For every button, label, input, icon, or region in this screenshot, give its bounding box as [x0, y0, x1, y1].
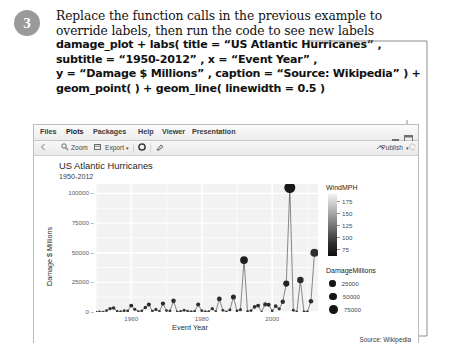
- export-icon[interactable]: [94, 143, 103, 152]
- instruction-code-line: geom_point( ) + geom_line( linewidth = 0…: [56, 82, 406, 97]
- pane-tab-bar: Files Plots Packages Help Viewer Present…: [34, 125, 418, 141]
- y-axis-ticks: 0 –25000 –50000 –75000 –100000 –: [34, 184, 94, 312]
- colorbar-tick: [337, 225, 340, 226]
- zoom-button[interactable]: Zoom: [71, 144, 88, 151]
- y-tick-label: 75000 –: [72, 219, 94, 226]
- toolbar-divider: [150, 143, 151, 153]
- color-legend: 17515012510075: [328, 194, 416, 256]
- instruction-code-line: damage_plot + labs( title = “US Atlantic…: [56, 38, 406, 53]
- size-legend-label: 50000: [343, 293, 360, 300]
- back-arrow-icon[interactable]: [39, 143, 47, 152]
- instruction-code-line: y = “Damage $ Millions” , caption = “Sou…: [56, 67, 406, 82]
- publish-button[interactable]: Publish: [381, 144, 403, 151]
- size-legend-dot: [329, 305, 338, 314]
- y-tick-label: 0 –: [85, 308, 94, 315]
- tab-viewer[interactable]: Viewer: [162, 127, 185, 136]
- size-legend: DamageMillions 250005000075000: [326, 267, 416, 316]
- x-tick-label: 1960: [124, 315, 138, 322]
- plot-series-svg: [96, 184, 318, 312]
- colorbar-tick: [337, 237, 340, 238]
- y-tick-label: 100000 –: [68, 189, 94, 196]
- plot-title: US Atlantic Hurricanes: [59, 160, 153, 171]
- tab-files[interactable]: Files: [40, 127, 56, 136]
- instruction-block: 3 Replace the function calls in the prev…: [0, 0, 454, 118]
- size-legend-row: 75000: [326, 303, 416, 316]
- x-tick-label: 2000: [265, 315, 279, 322]
- plot-legend: WindMPH 17515012510075 DamageMillions 25…: [326, 184, 416, 316]
- magnifier-icon[interactable]: [61, 143, 69, 152]
- rstudio-plots-pane: Files Plots Packages Help Viewer Present…: [33, 124, 419, 343]
- pane-toolbar: Zoom Export ▾ Publish ▾: [34, 141, 418, 156]
- size-legend-label: 25000: [342, 280, 359, 287]
- x-tick-label: 1980: [195, 315, 209, 322]
- size-legend-dot: [329, 280, 336, 287]
- x-axis-ticks: 196019802000: [96, 312, 318, 324]
- plot-caption: Source: Wikipedia: [359, 336, 411, 343]
- colorbar-tick: [337, 249, 340, 250]
- step-number-badge: 3: [14, 10, 40, 36]
- plot-canvas: US Atlantic Hurricanes 1950-2012 Damage …: [34, 156, 418, 345]
- instruction-code-line: subtitle = “1950-2012” , x = “Event Year…: [56, 53, 406, 68]
- colorbar-tick-label: 75: [342, 245, 349, 252]
- export-caret-icon[interactable]: ▾: [126, 145, 129, 151]
- x-axis-label: Event Year: [62, 323, 318, 332]
- instruction-prose-line: Replace the function calls in the previo…: [56, 9, 406, 24]
- size-legend-label: 75000: [344, 306, 361, 313]
- plot-subtitle: 1950-2012: [59, 172, 93, 181]
- size-legend-row: 50000: [326, 290, 416, 303]
- colorbar-tick-label: 150: [342, 210, 352, 217]
- size-legend-row: 25000: [326, 277, 416, 290]
- colorbar-gradient: [328, 194, 337, 256]
- instruction-text: Replace the function calls in the previo…: [56, 9, 406, 97]
- refresh-icon[interactable]: [409, 143, 417, 152]
- plot-panel: [96, 184, 318, 312]
- size-legend-title: DamageMillions: [326, 267, 416, 274]
- toolbar-divider: [133, 143, 134, 153]
- instruction-prose-line: override labels, then run the code to se…: [56, 24, 406, 39]
- tab-plots[interactable]: Plots: [66, 127, 84, 136]
- size-legend-dot: [329, 293, 337, 301]
- clear-all-plots-icon[interactable]: [156, 143, 165, 152]
- colorbar-tick-label: 100: [342, 233, 352, 240]
- export-button[interactable]: Export: [105, 144, 124, 151]
- remove-plot-icon[interactable]: [138, 143, 146, 152]
- colorbar-tick: [337, 213, 340, 214]
- y-tick-label: 50000 –: [72, 249, 94, 256]
- colorbar-tick-label: 175: [342, 198, 352, 205]
- y-tick-label: 25000 –: [72, 278, 94, 285]
- tab-packages[interactable]: Packages: [93, 127, 126, 136]
- color-legend-title: WindMPH: [326, 184, 416, 191]
- tab-help[interactable]: Help: [138, 127, 154, 136]
- colorbar-tick-label: 125: [342, 222, 352, 229]
- tab-presentation[interactable]: Presentation: [192, 127, 236, 136]
- colorbar-tick: [337, 201, 340, 202]
